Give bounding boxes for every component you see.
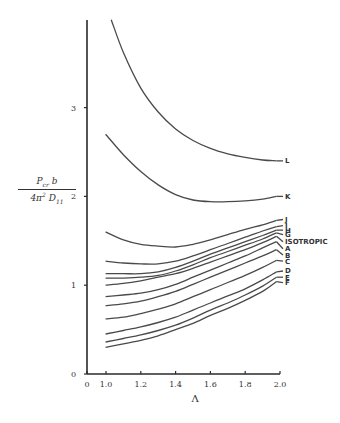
x-tick-label: 1.2 <box>134 380 147 389</box>
y-tick-label: 2 <box>71 192 76 201</box>
x-axis-title: Λ <box>190 393 199 404</box>
x-tick-label: 1.6 <box>204 380 217 389</box>
leader-j <box>277 219 283 220</box>
x-tick-label: 1.4 <box>169 380 182 389</box>
curve-label-k: K <box>285 193 291 201</box>
leader-b <box>277 250 283 255</box>
leader-i <box>277 226 283 227</box>
leader-isotropic <box>277 236 283 241</box>
x-tick-label: 2.0 <box>274 380 287 389</box>
curve-h <box>106 230 277 274</box>
y-tick-label: 3 <box>71 104 76 113</box>
curve-label-isotropic: ISOTROPIC <box>285 238 328 246</box>
leader-f <box>277 282 283 283</box>
buckling-chart: 01.01.21.41.61.82.00123 LKJIHGISOTROPICA… <box>0 0 340 423</box>
y-tick-label: 0 <box>71 370 76 379</box>
curve-e <box>106 277 277 342</box>
curve-k <box>106 134 277 202</box>
leader-c <box>277 260 283 261</box>
leader-g <box>277 233 283 235</box>
x-tick-label: 0 <box>84 380 89 389</box>
curve-l <box>111 20 276 161</box>
leader-a <box>277 242 283 249</box>
curve-label-l: L <box>285 157 290 165</box>
y-tick-label: 1 <box>71 281 76 290</box>
axes: 01.01.21.41.61.82.00123 <box>71 20 286 389</box>
x-tick-label: 1.8 <box>239 380 252 389</box>
x-tick-label: 1.0 <box>100 380 113 389</box>
curves <box>106 20 283 348</box>
leader-d <box>277 271 283 272</box>
curve-label-c: C <box>285 258 290 266</box>
curve-label-f: F <box>285 279 290 287</box>
curve-labels: LKJIHGISOTROPICABCDEF <box>284 157 328 287</box>
